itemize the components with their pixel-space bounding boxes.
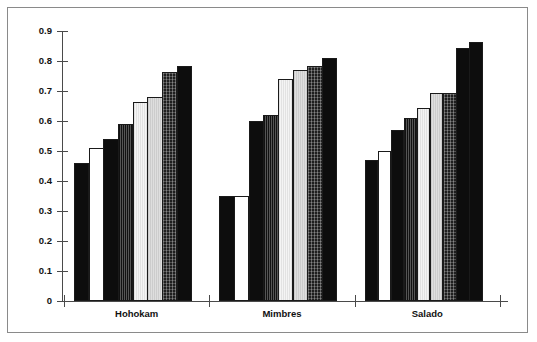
bar <box>404 118 418 301</box>
y-axis-tick-label-wrap: 0 <box>8 296 52 306</box>
y-axis-tick <box>57 241 68 242</box>
y-axis-tick <box>57 151 68 152</box>
bar <box>278 79 293 301</box>
y-axis-tick-label: 0.6 <box>12 116 52 126</box>
y-axis-tick <box>57 61 68 62</box>
y-axis-tick <box>57 121 68 122</box>
bar <box>118 124 133 301</box>
x-axis-line <box>62 301 508 302</box>
y-axis-tick <box>57 91 68 92</box>
y-axis-line <box>62 31 63 302</box>
bar <box>133 102 148 302</box>
y-axis-tick <box>57 181 68 182</box>
bar <box>249 121 264 301</box>
bar <box>74 163 89 301</box>
y-axis-tick-label-wrap: 0.7 <box>8 86 52 96</box>
bar <box>365 160 379 301</box>
bar <box>263 115 278 301</box>
bar <box>147 97 162 301</box>
bar <box>391 130 405 301</box>
y-axis-tick-label: 0.1 <box>12 266 52 276</box>
y-axis-tick-label: 0.9 <box>12 26 52 36</box>
bar <box>456 48 470 302</box>
y-axis-tick <box>57 31 68 32</box>
y-axis-tick <box>57 301 68 302</box>
y-axis-tick-label: 0.3 <box>12 206 52 216</box>
bar <box>430 93 444 302</box>
bar <box>417 108 431 302</box>
y-axis-tick-label-wrap: 0.6 <box>8 116 52 126</box>
y-axis-tick-label: 0 <box>12 296 52 306</box>
x-axis-separator-tick <box>355 295 356 307</box>
y-axis-tick-label-wrap: 0.8 <box>8 56 52 66</box>
bar <box>322 58 337 301</box>
y-axis-tick-label: 0.8 <box>12 56 52 66</box>
x-axis-separator-tick <box>500 295 501 307</box>
y-axis-tick <box>57 211 68 212</box>
x-axis-group-label: Hohokam <box>64 308 209 319</box>
y-axis-tick-label-wrap: 0.3 <box>8 206 52 216</box>
y-axis-tick-label-wrap: 0.1 <box>8 266 52 276</box>
y-axis-tick-label-wrap: 0.5 <box>8 146 52 156</box>
bar <box>234 196 249 301</box>
bar <box>469 42 483 302</box>
x-axis-group-label: Mimbres <box>209 308 354 319</box>
y-axis-tick-label-wrap: 0.9 <box>8 26 52 36</box>
x-axis-separator-tick <box>64 295 65 307</box>
bar <box>103 139 118 301</box>
y-axis-tick-label: 0.4 <box>12 176 52 186</box>
x-axis-group-label: Salado <box>355 308 500 319</box>
bar <box>293 70 308 301</box>
bar <box>443 93 457 302</box>
bar <box>162 72 177 302</box>
bar <box>307 66 322 302</box>
y-axis-tick <box>57 271 68 272</box>
x-axis-separator-tick <box>209 295 210 307</box>
bar <box>378 151 392 301</box>
bar <box>219 196 234 301</box>
y-axis-tick-label: 0.2 <box>12 236 52 246</box>
chart-figure: 00.10.20.30.40.50.60.70.80.9 HohokamMimb… <box>0 0 537 342</box>
y-axis-tick-label: 0.5 <box>12 146 52 156</box>
bar <box>177 66 192 302</box>
y-axis-tick-label-wrap: 0.4 <box>8 176 52 186</box>
y-axis-tick-label-wrap: 0.2 <box>8 236 52 246</box>
y-axis-tick-label: 0.7 <box>12 86 52 96</box>
bar <box>89 148 104 301</box>
